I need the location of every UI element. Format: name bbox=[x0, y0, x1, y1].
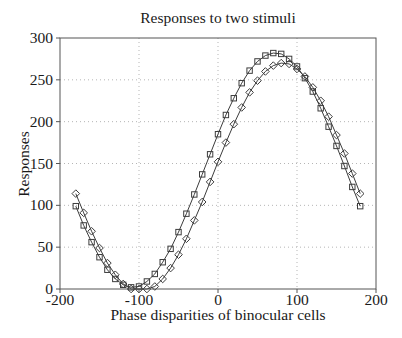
y-tick-label: 300 bbox=[30, 29, 54, 46]
y-tick-label: 150 bbox=[30, 155, 54, 172]
grid-lines bbox=[60, 38, 376, 289]
x-tick-label: 0 bbox=[214, 291, 222, 308]
y-tick-label: 100 bbox=[30, 196, 54, 213]
y-tick-label: 0 bbox=[45, 280, 53, 297]
x-tick-label: 100 bbox=[285, 291, 309, 308]
series-line bbox=[76, 63, 360, 289]
figure: Responses to two stimuli Responses Phase… bbox=[0, 0, 402, 338]
x-tick-label: 200 bbox=[364, 291, 388, 308]
y-tick-label: 200 bbox=[30, 113, 54, 130]
x-tick-label: -100 bbox=[125, 291, 154, 308]
plot-canvas: -200-1000100200050100150200250300 bbox=[0, 0, 402, 338]
tick-labels: -200-1000100200050100150200250300 bbox=[30, 29, 388, 308]
tick-marks bbox=[56, 38, 376, 293]
y-tick-label: 250 bbox=[30, 71, 54, 88]
y-tick-label: 50 bbox=[38, 238, 54, 255]
